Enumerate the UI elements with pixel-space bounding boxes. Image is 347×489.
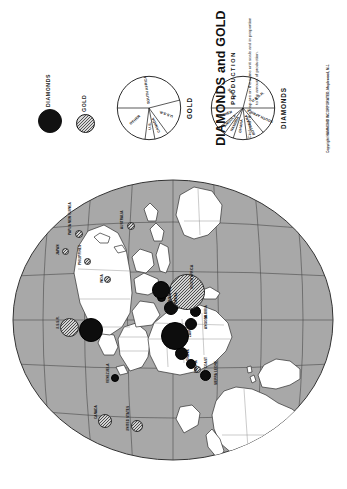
map-circle-canada[interactable] <box>98 414 112 428</box>
map-page: CANADAUNITED STATESVENEZUELAU.S.S.R.GHAN… <box>0 0 347 489</box>
map-circle-united-states[interactable] <box>131 420 143 432</box>
map-label-venezuela: VENEZUELA <box>106 364 110 383</box>
diamonds-pie-caption: DIAMONDS <box>280 67 287 149</box>
map-label-papua-new-guinea: PAPUA NEW GUINEA <box>68 202 72 235</box>
map-circle-venezuela[interactable] <box>111 374 119 382</box>
copyright-notice: Copyright HAMMOND INCORPORATED, Maplewoo… <box>326 64 330 153</box>
map-label-namibia: NAMIBIA <box>204 305 208 319</box>
gold-pie-caption: GOLD <box>186 67 193 149</box>
pie-slice-label-u-s-: U.S. <box>147 123 151 131</box>
page-frame: CANADAUNITED STATESVENEZUELAU.S.S.R.GHAN… <box>4 4 343 485</box>
map-label-canada: CANADA <box>94 405 98 419</box>
map-circle-papua-new-guinea[interactable] <box>75 230 83 238</box>
map-label-zaire: ZAIRE <box>188 327 192 337</box>
page-subtitle: PRODUCTION <box>230 5 236 151</box>
gold-pie-chart[interactable]: SOUTH AFRICAU.S.S.R.CANADAU.S.OTHER <box>116 75 182 141</box>
legend-gold-label: GOLD <box>81 95 87 112</box>
legend-gold: GOLD <box>76 114 95 133</box>
map-label-ivory-coast: IVORY COAST <box>204 357 208 379</box>
legend-diamonds-label: DIAMONDS <box>45 74 51 107</box>
legend-panel: DIAMONDS GOLD SOUTH AFRICAU.S.S.R.CANADA… <box>4 4 343 155</box>
world-map[interactable]: CANADAUNITED STATESVENEZUELAU.S.S.R.GHAN… <box>8 161 339 479</box>
map-caption: Circles on the map are on the same unit … <box>247 5 260 151</box>
map-circle-u-s-s-r-diamonds[interactable] <box>79 318 103 342</box>
map-label-botswana: BOTSWANA <box>174 292 178 311</box>
map-label-united-states: UNITED STATES <box>126 406 130 431</box>
legend-diamonds: DIAMONDS <box>38 109 62 133</box>
map-label-sierra-leone: SIERRA LEONE <box>214 361 218 385</box>
diamonds-swatch-icon <box>38 109 62 133</box>
gold-pie-svg <box>116 75 182 141</box>
map-label-japan: JAPAN <box>56 244 60 255</box>
map-label-tanzania: TANZANIA <box>168 287 172 303</box>
gold-swatch-icon <box>76 114 95 133</box>
title-block: DIAMONDS and GOLD PRODUCTION Circles on … <box>214 5 260 151</box>
page-title: DIAMONDS and GOLD <box>214 5 228 151</box>
map-label-ghana: GHANA <box>186 349 190 361</box>
map-label-u-s-s-r-: U.S.S.R. <box>56 316 60 329</box>
map-sheet: CANADAUNITED STATESVENEZUELAU.S.S.R.GHAN… <box>4 4 343 485</box>
map-label-philippines: PHILIPPINES <box>78 245 82 265</box>
map-label-australia: AUSTRALIA <box>120 210 124 229</box>
map-circle-u-s-s-r-gold[interactable] <box>60 319 79 338</box>
map-circle-australia[interactable] <box>127 222 135 230</box>
map-label-liberia: LIBERIA <box>194 360 198 373</box>
map-label-india: INDIA <box>100 274 104 283</box>
map-label-south-africa: SOUTH AFRICA <box>190 265 194 289</box>
